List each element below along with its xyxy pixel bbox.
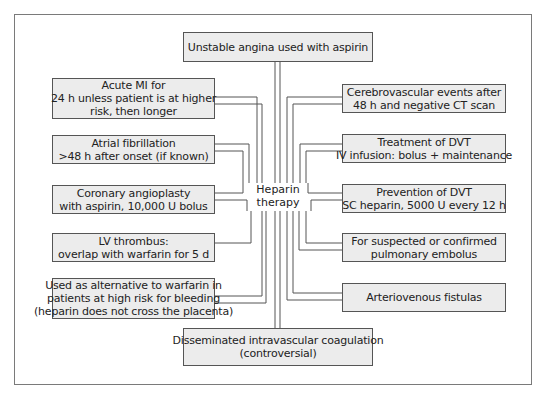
box-text: Cerebrovascular events after	[347, 86, 501, 99]
indication-box-right-4: For suspected or confirmed pulmonary emb…	[342, 233, 506, 262]
box-text: Arteriovenous fistulas	[366, 291, 482, 304]
box-text: Treatment of DVT	[378, 136, 471, 149]
box-text: Unstable angina used with aspirin	[188, 41, 368, 54]
indication-box-top: Unstable angina used with aspirin	[183, 32, 373, 62]
box-text: (heparin does not cross the placenta)	[34, 305, 233, 318]
box-text: 48 h and negative CT scan	[353, 99, 495, 112]
box-text: IV infusion: bolus + maintenance	[336, 149, 512, 162]
indication-box-left-5: Used as alternative to warfarin in patie…	[52, 278, 215, 319]
indication-box-left-2: Atrial fibrillation >48 h after onset (i…	[52, 135, 215, 164]
indication-box-left-1: Acute MI for 24 h unless patient is at h…	[52, 78, 215, 119]
box-text: pulmonary embolus	[371, 248, 477, 261]
box-text: with aspirin, 10,000 U bolus	[59, 200, 207, 213]
box-text: LV thrombus:	[99, 235, 169, 248]
box-text: Used as alternative to warfarin in	[45, 279, 222, 292]
box-text: 24 h unless patient is at higher	[51, 92, 216, 105]
box-text: (controversial)	[239, 347, 316, 360]
box-text: patients at high risk for bleeding	[47, 292, 220, 305]
box-text: Acute MI for	[102, 79, 166, 92]
box-text: Atrial fibrillation	[91, 137, 175, 150]
box-text: >48 h after onset (if known)	[58, 150, 208, 163]
box-text: Coronary angioplasty	[77, 187, 190, 200]
box-text: For suspected or confirmed	[351, 235, 497, 248]
box-text: SC heparin, 5000 U every 12 h	[342, 199, 505, 212]
indication-box-left-3: Coronary angioplasty with aspirin, 10,00…	[52, 185, 215, 214]
indication-box-right-3: Prevention of DVT SC heparin, 5000 U eve…	[342, 184, 506, 213]
indication-box-right-5: Arteriovenous fistulas	[342, 283, 506, 312]
box-text: Disseminated intravascular coagulation	[173, 334, 384, 347]
box-text: overlap with warfarin for 5 d	[58, 248, 209, 261]
center-text: therapy	[250, 196, 306, 209]
center-text: Heparin	[250, 183, 306, 196]
indication-box-bottom: Disseminated intravascular coagulation (…	[183, 328, 373, 366]
indication-box-left-4: LV thrombus: overlap with warfarin for 5…	[52, 233, 215, 262]
indication-box-right-2: Treatment of DVT IV infusion: bolus + ma…	[342, 134, 506, 163]
indication-box-right-1: Cerebrovascular events after 48 h and ne…	[342, 84, 506, 113]
central-node-heparin-therapy: Heparin therapy	[250, 183, 306, 209]
box-text: Prevention of DVT	[376, 186, 472, 199]
box-text: risk, then longer	[90, 105, 177, 118]
